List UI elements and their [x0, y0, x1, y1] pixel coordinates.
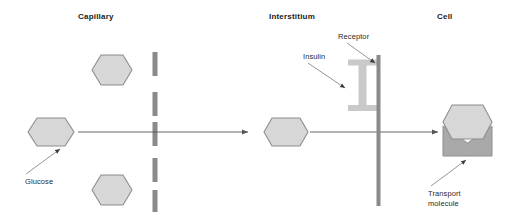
- glucose-hexagon-capillary-top: [92, 55, 132, 85]
- glucose-hexagon-bound-to-transport: [443, 105, 492, 139]
- cell-membrane: [377, 55, 381, 206]
- region-label-capillary: Capillary: [78, 13, 114, 21]
- callout-label-insulin: Insulin: [303, 52, 325, 62]
- glucose-hexagon-capillary-middle: [28, 118, 74, 146]
- leader-line-glucose: [26, 149, 60, 174]
- glucose-hexagon-capillary-bottom: [92, 175, 132, 205]
- region-label-cell: Cell: [437, 13, 452, 21]
- region-label-interstitium: Interstitium: [269, 13, 315, 21]
- insulin-receptor-complex: [348, 60, 377, 112]
- diagram-vector-layer: [0, 0, 518, 219]
- callout-label-glucose: Glucose: [25, 177, 53, 187]
- callout-label-receptor: Receptor: [338, 32, 369, 42]
- leader-line-transport-molecule: [431, 160, 466, 186]
- glucose-hexagon-interstitium: [264, 118, 308, 146]
- diagram-canvas: Capillary Interstitium Cell Glucose Insu…: [0, 0, 518, 219]
- callout-label-transport-molecule: Transport molecule: [428, 189, 461, 209]
- leader-line-insulin: [308, 63, 345, 88]
